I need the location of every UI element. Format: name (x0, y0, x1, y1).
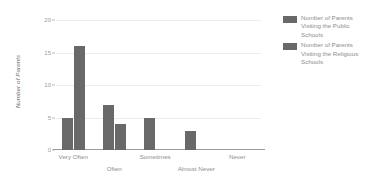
legend-label: Number of Parents Visiting the Religious… (301, 41, 359, 66)
bar (115, 124, 126, 150)
y-tick-label: 5 (48, 115, 51, 121)
y-tick-mark (52, 20, 55, 21)
x-axis-label: Often (107, 165, 122, 172)
plot-area: 20151050 (56, 20, 261, 150)
bar-chart: Number of Parents 20151050 Very OftenOft… (0, 0, 367, 189)
bars-layer (56, 20, 261, 150)
y-tick-mark (52, 117, 55, 118)
x-axis-label: Very Often (59, 153, 88, 160)
legend-item[interactable]: Number of Parents Visiting the Religious… (283, 41, 367, 66)
bar (185, 131, 196, 151)
x-axis-label: Almost Never (178, 165, 215, 172)
y-tick-label: 10 (44, 82, 51, 88)
bar (144, 118, 155, 151)
x-axis-label: Sometimes (140, 153, 171, 160)
y-tick-label: 15 (44, 50, 51, 56)
y-tick-label: 20 (44, 17, 51, 23)
bar (74, 46, 85, 150)
x-axis-label: Never (229, 153, 246, 160)
bar (103, 105, 114, 151)
y-tick-mark (52, 85, 55, 86)
y-tick-mark (52, 52, 55, 53)
legend-item[interactable]: Number of Parents Visiting the Public Sc… (283, 14, 367, 39)
legend-label: Number of Parents Visiting the Public Sc… (301, 14, 359, 39)
legend-swatch-icon (283, 16, 297, 23)
bar (62, 118, 73, 151)
legend-swatch-icon (283, 43, 297, 50)
y-tick-label: 0 (48, 147, 51, 153)
chart-legend: Number of Parents Visiting the Public Sc… (283, 14, 367, 68)
y-axis-title: Number of Parents (14, 34, 21, 130)
x-axis-labels: Very OftenOftenSometimesAlmost NeverNeve… (56, 150, 261, 182)
